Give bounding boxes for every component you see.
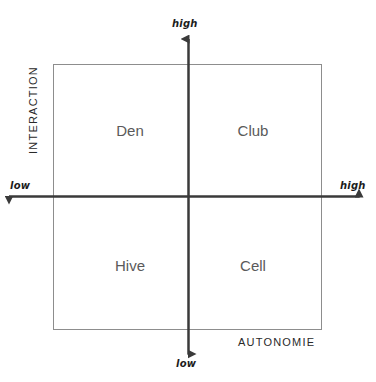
quadrant-label-club: Club — [198, 122, 308, 139]
quadrant-label-den: Den — [75, 122, 185, 139]
vertical-axis-low-label: low — [176, 358, 196, 369]
diagram-canvas: high low low high INTERACTION AUTONOMIE … — [0, 0, 376, 382]
horizontal-axis-title: AUTONOMIE — [238, 336, 315, 348]
horizontal-axis-high-label: high — [340, 180, 366, 191]
matrix-box — [53, 64, 322, 330]
vertical-axis-high-label: high — [172, 18, 198, 29]
quadrant-label-cell: Cell — [198, 257, 308, 274]
horizontal-axis-low-label: low — [10, 180, 30, 191]
vertical-axis-title: INTERACTION — [27, 60, 39, 160]
quadrant-label-hive: Hive — [75, 257, 185, 274]
